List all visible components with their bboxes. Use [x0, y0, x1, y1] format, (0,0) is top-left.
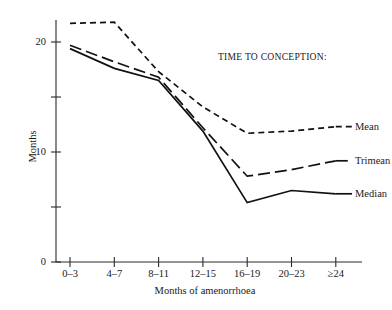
y-axis-tick-label: 0 — [10, 257, 46, 268]
x-axis-tick-label: ≥24 — [310, 269, 362, 280]
series-label-median: Median — [355, 188, 387, 199]
chart-series-group — [70, 22, 336, 202]
series-label-trimean: Trimean — [355, 155, 390, 166]
chart-figure: 01020 0–34–78–1112–1516–1920–23≥24 Month… — [0, 0, 392, 310]
legend-title: TIME TO CONCEPTION: — [218, 51, 327, 62]
series-label-leaders — [336, 127, 352, 194]
series-line-trimean — [70, 45, 336, 176]
y-axis-title: Months — [27, 117, 38, 177]
series-line-median — [70, 49, 336, 203]
x-axis-title: Months of amenorrhoea — [60, 285, 350, 296]
chart-plot-area — [0, 0, 392, 310]
series-label-mean: Mean — [355, 121, 379, 132]
y-axis-tick-label: 20 — [10, 37, 46, 48]
series-line-mean — [70, 22, 336, 133]
